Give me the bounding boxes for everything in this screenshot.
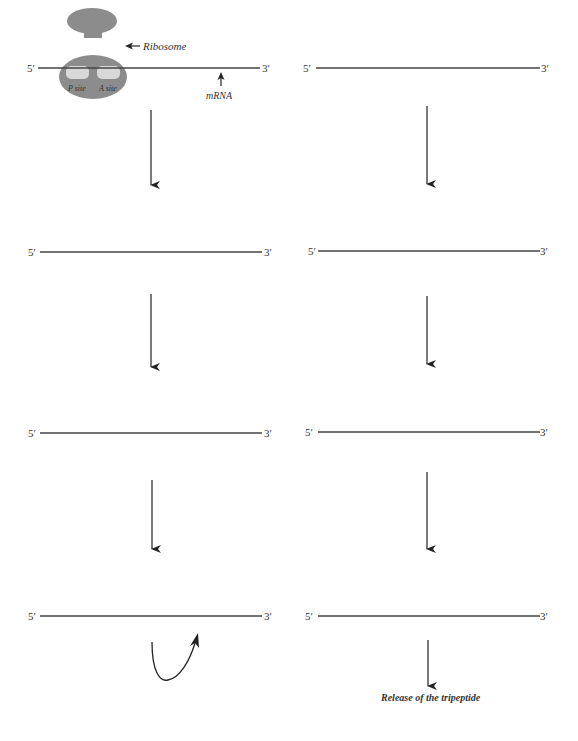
strand-L4: 5′ 3′ xyxy=(28,610,272,622)
ribosome-label: Ribosome xyxy=(142,40,187,52)
strand-R4: 5′ 3′ xyxy=(305,610,548,622)
ribosome-pointer-arrow-icon xyxy=(125,43,140,50)
strand-R2: 5′ 3′ xyxy=(308,245,548,257)
three-prime-label: 3′ xyxy=(264,246,272,258)
three-prime-label: 3′ xyxy=(540,245,548,257)
three-prime-label: 3′ xyxy=(541,62,549,74)
strand-R3: 5′ 3′ xyxy=(305,426,548,438)
five-prime-label: 5′ xyxy=(27,62,35,74)
five-prime-label: 5′ xyxy=(28,427,36,439)
strand-L3: 5′ 3′ xyxy=(28,427,272,439)
curved-return-arrow-icon xyxy=(152,633,199,680)
translation-diagram: 5′ 3′ 5′ 3′ 5′ 3′ 5′ 3′ 5′ 3′ 5′ 3′ 5′ 3… xyxy=(0,0,578,741)
five-prime-label: 5′ xyxy=(308,245,316,257)
mrna-pointer-arrow-icon xyxy=(218,72,225,86)
strand-R1: 5′ 3′ xyxy=(303,62,549,74)
mrna-label: mRNA xyxy=(206,90,233,101)
five-prime-label: 5′ xyxy=(28,246,36,258)
five-prime-label: 5′ xyxy=(305,610,313,622)
strand-L2: 5′ 3′ xyxy=(28,246,272,258)
five-prime-label: 5′ xyxy=(305,426,313,438)
three-prime-label: 3′ xyxy=(264,427,272,439)
a-site-label: A site xyxy=(98,84,117,93)
p-site-label: P site xyxy=(67,84,86,93)
five-prime-label: 5′ xyxy=(303,62,311,74)
three-prime-label: 3′ xyxy=(540,610,548,622)
release-caption: Release of the tripeptide xyxy=(380,692,481,703)
three-prime-label: 3′ xyxy=(540,426,548,438)
three-prime-label: 3′ xyxy=(262,62,270,74)
three-prime-label: 3′ xyxy=(264,610,272,622)
five-prime-label: 5′ xyxy=(28,610,36,622)
